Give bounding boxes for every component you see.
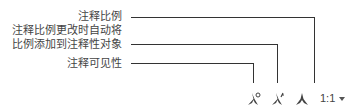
scale-value: 1:1 bbox=[320, 92, 335, 104]
leader-line-scale bbox=[131, 17, 315, 18]
leader-drop-visibility bbox=[253, 63, 254, 83]
chevron-down-icon bbox=[339, 97, 345, 101]
label-annotation-scale: 注释比例 bbox=[78, 10, 122, 23]
label-auto-add-line1: 注释比例更改时自动将 bbox=[12, 24, 122, 37]
leader-line-visibility bbox=[131, 63, 254, 64]
leader-line-auto-add bbox=[131, 44, 278, 45]
annotation-visibility-icon[interactable] bbox=[246, 91, 262, 107]
label-annotation-visibility: 注释可见性 bbox=[67, 57, 122, 70]
annotation-scale-dropdown[interactable]: 1:1 bbox=[320, 92, 345, 104]
label-auto-add-line2: 比例添加到注释性对象 bbox=[12, 38, 122, 51]
auto-add-scale-icon[interactable] bbox=[270, 91, 286, 107]
leader-drop-auto-add bbox=[277, 44, 278, 83]
annotation-scale-icon[interactable] bbox=[294, 91, 310, 107]
leader-drop-scale bbox=[314, 17, 315, 83]
